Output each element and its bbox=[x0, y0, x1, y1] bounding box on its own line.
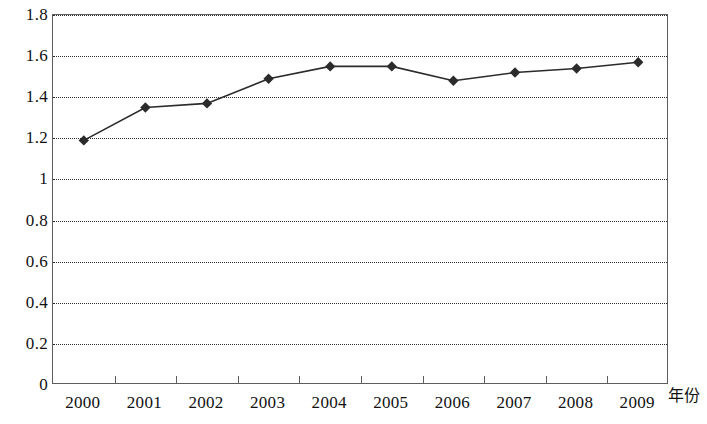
y-axis-tick-label: 1 bbox=[2, 170, 48, 187]
data-point-marker bbox=[325, 61, 335, 71]
x-axis-tick-labels: 2000200120022003200420052006200720082009 bbox=[52, 392, 668, 424]
x-axis-tick-label: 2004 bbox=[294, 392, 364, 414]
x-axis-tick-label: 2008 bbox=[541, 392, 611, 414]
data-point-marker bbox=[263, 74, 273, 84]
y-axis-tick-label: 1.2 bbox=[2, 129, 48, 146]
gridline bbox=[53, 303, 667, 304]
x-axis-tick-label: 2009 bbox=[602, 392, 672, 414]
y-axis-tick-label: 1.8 bbox=[2, 6, 48, 23]
y-axis-tick-labels: 00.20.40.60.811.21.41.61.8 bbox=[0, 0, 48, 424]
line-chart: 00.20.40.60.811.21.41.61.8 2000200120022… bbox=[0, 0, 707, 424]
data-point-marker bbox=[79, 135, 89, 145]
x-axis-tick-label: 2000 bbox=[48, 392, 118, 414]
y-axis-tick-label: 1.6 bbox=[2, 47, 48, 64]
data-point-marker bbox=[448, 76, 458, 86]
x-axis-tick bbox=[423, 376, 424, 383]
gridline bbox=[53, 97, 667, 98]
x-axis-tick bbox=[115, 376, 116, 383]
y-axis-tick-label: 0.2 bbox=[2, 334, 48, 351]
data-point-marker bbox=[633, 57, 643, 67]
y-axis-tick-label: 0 bbox=[2, 376, 48, 393]
gridline bbox=[53, 15, 667, 16]
gridline bbox=[53, 221, 667, 222]
data-point-marker bbox=[202, 98, 212, 108]
data-point-marker bbox=[510, 67, 520, 77]
x-axis-title: 年份 bbox=[668, 386, 700, 406]
gridline bbox=[53, 344, 667, 345]
data-series-layer bbox=[53, 15, 669, 385]
x-axis-tick-label: 2003 bbox=[233, 392, 303, 414]
x-axis-tick bbox=[361, 376, 362, 383]
x-axis-tick-label: 2001 bbox=[109, 392, 179, 414]
series-line bbox=[84, 62, 638, 140]
x-axis-tick-label: 2002 bbox=[171, 392, 241, 414]
y-axis-tick-label: 1.4 bbox=[2, 88, 48, 105]
data-point-marker bbox=[387, 61, 397, 71]
x-axis-tick bbox=[607, 376, 608, 383]
y-axis-tick-label: 0.4 bbox=[2, 293, 48, 310]
data-point-marker bbox=[571, 63, 581, 73]
gridline bbox=[53, 179, 667, 180]
y-axis-tick-label: 0.6 bbox=[2, 252, 48, 269]
x-axis-tick bbox=[176, 376, 177, 383]
x-axis-tick bbox=[484, 376, 485, 383]
x-axis-tick bbox=[546, 376, 547, 383]
x-axis-tick-label: 2005 bbox=[356, 392, 426, 414]
gridline bbox=[53, 138, 667, 139]
x-axis-tick bbox=[299, 376, 300, 383]
x-axis-tick bbox=[238, 376, 239, 383]
x-axis-tick-label: 2007 bbox=[479, 392, 549, 414]
gridline bbox=[53, 56, 667, 57]
gridline bbox=[53, 262, 667, 263]
data-point-marker bbox=[140, 102, 150, 112]
x-axis-tick-label: 2006 bbox=[417, 392, 487, 414]
y-axis-tick-label: 0.8 bbox=[2, 211, 48, 228]
plot-area bbox=[52, 14, 668, 384]
